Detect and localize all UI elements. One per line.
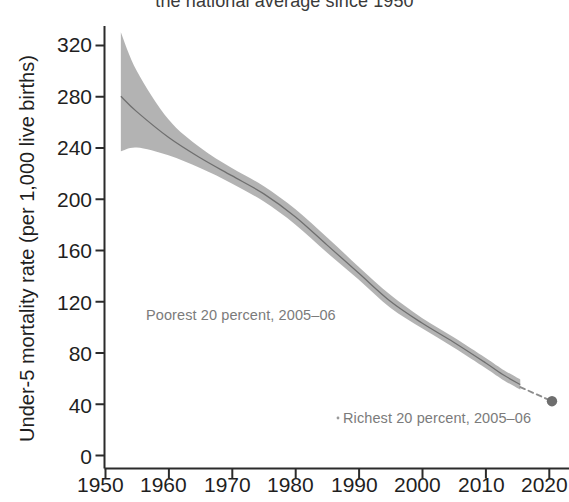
chart-container: the national average since 1950 Under-5 … [0, 0, 569, 502]
chart-plot-svg [0, 0, 569, 502]
richest-leader-dot [337, 417, 340, 420]
x-axis-tick-marks [106, 469, 550, 479]
y-axis-tick-marks [96, 46, 105, 456]
endpoint-marker-dot [547, 396, 557, 406]
uncertainty-band-area [121, 32, 520, 389]
projection-dashed-line [520, 387, 552, 401]
